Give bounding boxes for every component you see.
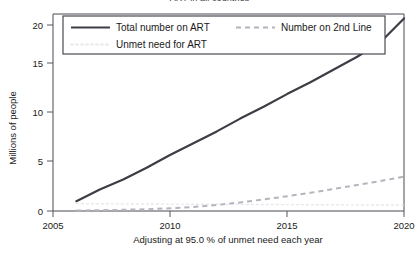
x-tick-2020: 2020: [393, 220, 414, 231]
chart-figure: ART in all countries 0 5 10 15 20: [0, 0, 419, 255]
y-tick-5: 5: [38, 156, 43, 167]
series-unmet-need-for-art: [76, 204, 404, 206]
y-axis-title: Millions of people: [7, 91, 18, 164]
x-axis-tick-labels: 2005 2010 2015 2020: [42, 220, 414, 231]
y-tick-15: 15: [32, 58, 43, 69]
chart-legend: Total number on ART Number on 2nd Line U…: [63, 16, 385, 54]
legend-label-unmet-need-for-art: Unmet need for ART: [116, 39, 207, 50]
y-tick-10: 10: [32, 107, 43, 118]
y-tick-0: 0: [38, 206, 43, 217]
y-tick-20: 20: [32, 20, 43, 31]
series-number-on-2nd-line: [76, 177, 404, 211]
line-chart: 0 5 10 15 20 2005 2010 2015 2020 Million…: [0, 0, 419, 255]
chart-title-clipped: ART in all countries: [0, 0, 419, 3]
x-tick-2015: 2015: [276, 220, 297, 231]
x-axis-title: Adjusting at 95.0 % of unmet need each y…: [133, 234, 323, 245]
x-axis-ticks: [53, 211, 404, 217]
y-axis-ticks: [47, 25, 53, 211]
x-tick-2005: 2005: [42, 220, 63, 231]
y-axis-tick-labels: 0 5 10 15 20: [32, 20, 43, 217]
legend-label-number-on-2nd-line: Number on 2nd Line: [281, 22, 372, 33]
legend-label-total-number-on-art: Total number on ART: [116, 22, 210, 33]
x-tick-2010: 2010: [159, 220, 180, 231]
